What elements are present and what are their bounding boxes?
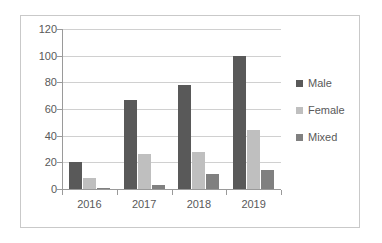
bar bbox=[233, 56, 246, 189]
y-axis-tick-label: 40 bbox=[27, 130, 57, 141]
bar bbox=[261, 170, 274, 189]
y-axis-line bbox=[62, 29, 63, 190]
y-axis-tick bbox=[57, 136, 62, 137]
legend-swatch-icon bbox=[296, 80, 303, 87]
y-axis-tick bbox=[57, 82, 62, 83]
y-axis-tick-label: 80 bbox=[27, 77, 57, 88]
x-axis-tick-label: 2019 bbox=[226, 198, 281, 210]
chart-plot-wrapper: 020406080100120 2016201720182019 MaleFem… bbox=[21, 16, 361, 229]
bar-groups bbox=[62, 29, 281, 189]
y-axis-tick-label: 100 bbox=[27, 50, 57, 61]
bar bbox=[69, 162, 82, 189]
y-axis-tick-label: 120 bbox=[27, 24, 57, 35]
bar bbox=[206, 174, 219, 189]
x-axis-tick bbox=[172, 190, 173, 195]
x-axis-tick bbox=[62, 190, 63, 195]
legend-item[interactable]: Female bbox=[296, 105, 358, 116]
bar bbox=[124, 100, 137, 189]
y-axis-tick-label: 0 bbox=[27, 184, 57, 195]
x-axis-tick bbox=[117, 190, 118, 195]
bar bbox=[178, 85, 191, 189]
y-axis-tick bbox=[57, 29, 62, 30]
bar bbox=[138, 154, 151, 189]
bar bbox=[83, 178, 96, 189]
legend-item[interactable]: Male bbox=[296, 78, 358, 89]
x-axis-tick-label: 2017 bbox=[117, 198, 172, 210]
y-axis-tick-labels: 020406080100120 bbox=[27, 29, 57, 189]
legend-item-label: Mixed bbox=[308, 132, 337, 143]
bar bbox=[247, 130, 260, 189]
y-axis-tick bbox=[57, 109, 62, 110]
bar-group bbox=[172, 29, 227, 189]
plot-area bbox=[62, 29, 281, 189]
legend-item-label: Male bbox=[308, 78, 332, 89]
chart-legend: MaleFemaleMixed bbox=[296, 78, 358, 159]
y-axis-tick bbox=[57, 162, 62, 163]
x-axis-tick-label: 2018 bbox=[172, 198, 227, 210]
legend-item[interactable]: Mixed bbox=[296, 132, 358, 143]
x-axis-tick-labels: 2016201720182019 bbox=[62, 198, 281, 210]
x-axis-tick bbox=[281, 190, 282, 195]
bar bbox=[192, 152, 205, 189]
y-axis-tick-label: 60 bbox=[27, 104, 57, 115]
bar-group bbox=[226, 29, 281, 189]
x-axis-tick-label: 2016 bbox=[62, 198, 117, 210]
x-axis-tick bbox=[226, 190, 227, 195]
y-axis-tick bbox=[57, 56, 62, 57]
bar-group bbox=[62, 29, 117, 189]
legend-swatch-icon bbox=[296, 107, 303, 114]
y-axis-tick-label: 20 bbox=[27, 157, 57, 168]
legend-item-label: Female bbox=[308, 105, 345, 116]
legend-swatch-icon bbox=[296, 134, 303, 141]
chart-frame: 020406080100120 2016201720182019 MaleFem… bbox=[20, 15, 360, 228]
bar-group bbox=[117, 29, 172, 189]
